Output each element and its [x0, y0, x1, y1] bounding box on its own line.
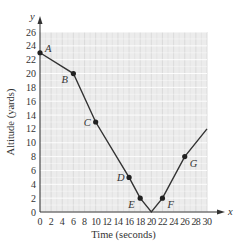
x-tick-label: 4 — [60, 216, 65, 227]
y-axis-label: Altitude (yards) — [5, 88, 17, 155]
x-tick-label: 2 — [49, 216, 54, 227]
x-tick-label: 14 — [114, 216, 123, 227]
data-point-g — [182, 154, 187, 159]
point-label-c: C — [84, 117, 92, 128]
y-axis-symbol: y — [29, 11, 35, 22]
point-label-d: D — [116, 172, 125, 183]
x-tick-label: 16 — [125, 216, 134, 227]
data-point-e — [138, 196, 143, 201]
x-tick-label: 30 — [203, 216, 212, 227]
point-label-b: B — [61, 74, 68, 85]
y-tick-label: 0 — [31, 207, 36, 218]
point-label-a: A — [44, 43, 52, 54]
y-tick-label: 26 — [26, 27, 36, 38]
x-tick-label: 18 — [136, 216, 145, 227]
data-point-b — [71, 71, 76, 76]
y-tick-label: 14 — [26, 110, 36, 121]
data-point-f — [160, 196, 165, 201]
y-tick-label: 10 — [26, 137, 36, 148]
point-label-e: E — [127, 199, 135, 210]
point-label-f: F — [166, 199, 174, 210]
x-tick-label: 28 — [191, 216, 200, 227]
y-tick-label: 22 — [26, 54, 36, 65]
data-point-c — [93, 119, 98, 124]
x-tick-label: 6 — [71, 216, 76, 227]
x-tick-label: 26 — [180, 216, 189, 227]
y-tick-label: 16 — [26, 96, 36, 107]
data-point-a — [37, 50, 42, 55]
x-tick-label: 24 — [169, 216, 178, 227]
x-tick-label: 10 — [91, 216, 100, 227]
altitude-chart: xy02468101214161820222426283002468101214… — [0, 0, 241, 246]
x-tick-label: 0 — [38, 216, 43, 227]
y-tick-label: 12 — [26, 123, 36, 134]
y-tick-label: 4 — [31, 179, 36, 190]
y-tick-label: 6 — [31, 165, 36, 176]
y-tick-label: 2 — [31, 193, 36, 204]
x-tick-label: 20 — [147, 216, 156, 227]
y-tick-label: 24 — [26, 40, 36, 51]
x-tick-label: 12 — [102, 216, 111, 227]
data-point-d — [126, 175, 131, 180]
x-axis-arrow-icon — [217, 210, 225, 215]
x-tick-label: 8 — [82, 216, 87, 227]
x-tick-label: 22 — [158, 216, 167, 227]
x-axis-label: Time (seconds) — [91, 229, 156, 241]
point-label-g: G — [190, 158, 198, 169]
y-tick-label: 8 — [31, 151, 36, 162]
y-tick-label: 20 — [26, 68, 36, 79]
y-axis-arrow-icon — [38, 16, 43, 24]
y-tick-label: 18 — [26, 82, 36, 93]
x-axis-symbol: x — [227, 206, 233, 217]
